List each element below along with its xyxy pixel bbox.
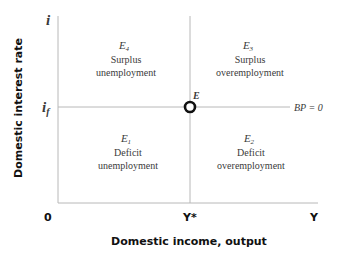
svg-text:unemployment: unemployment [98, 160, 158, 171]
svg-text:E3: E3 [242, 39, 254, 53]
bp-line-label: BP = 0 [294, 102, 323, 113]
x-axis-symbol: Y [309, 211, 319, 224]
svg-text:overemployment: overemployment [217, 160, 285, 171]
origin-label: 0 [44, 211, 52, 224]
full-employment-output-label: Y* [182, 211, 197, 224]
equilibrium-point [185, 102, 195, 112]
svg-text:E2: E2 [243, 132, 255, 146]
x-axis-label: Domestic income, output [111, 235, 267, 248]
quadrant-e4: E4 Surplus unemployment [96, 39, 156, 78]
svg-text:Surplus: Surplus [111, 54, 142, 65]
y-axis-symbol: i [46, 12, 51, 28]
svg-text:unemployment: unemployment [96, 67, 156, 78]
y-axis-label: Domestic interest rate [12, 38, 25, 178]
quadrant-e2: E2 Deficit overemployment [217, 132, 285, 171]
svg-text:Deficit: Deficit [114, 147, 142, 158]
equilibrium-label: E [192, 90, 200, 101]
svg-text:overemployment: overemployment [216, 67, 284, 78]
svg-text:E1: E1 [120, 132, 131, 146]
quadrant-e3: E3 Surplus overemployment [216, 39, 284, 78]
svg-text:E4: E4 [118, 39, 130, 53]
quadrant-e1: E1 Deficit unemployment [98, 132, 158, 171]
svg-text:Deficit: Deficit [237, 147, 265, 158]
svg-text:Surplus: Surplus [235, 54, 266, 65]
balance-of-payments-diagram: i if 0 Y* Y Domestic income, output Dome… [0, 0, 343, 254]
y-level-symbol: if [42, 99, 51, 117]
